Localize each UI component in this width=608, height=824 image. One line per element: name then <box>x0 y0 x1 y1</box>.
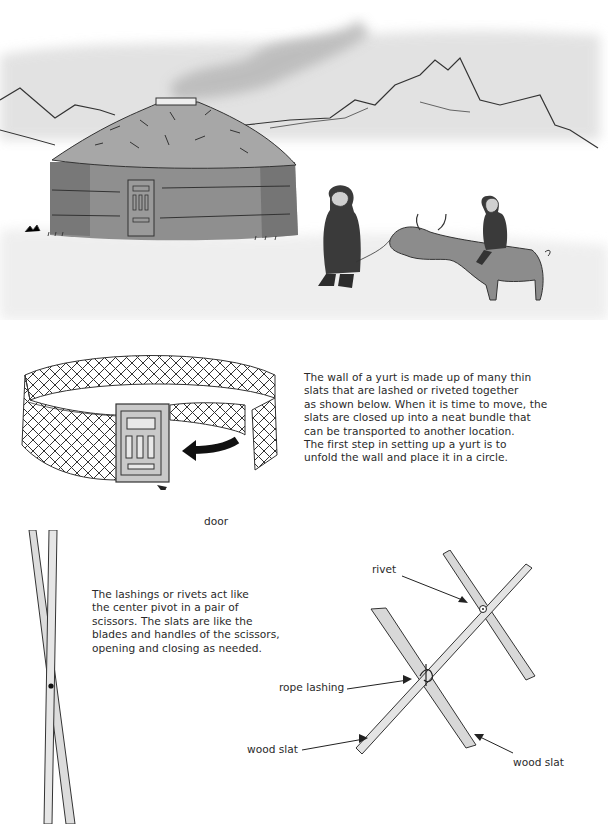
rivet-label: rivet <box>372 563 396 575</box>
wood-slat-left-label: wood slat <box>247 743 298 755</box>
scissor-slats-svg <box>0 530 100 824</box>
yurt-scene-svg <box>0 0 608 320</box>
lattice-wall-svg <box>0 330 300 490</box>
paragraph-line: The first step in setting up a yurt is t… <box>304 438 547 451</box>
paragraph-line: The wall of a yurt is made up of many th… <box>304 371 547 384</box>
paragraph-line: slats are closed up into a neat bundle t… <box>304 411 547 424</box>
wood-slat-right-label: wood slat <box>513 756 564 768</box>
paragraph-line: can be transported to another location. <box>304 425 547 438</box>
yurt-scene-illustration <box>0 0 608 320</box>
door-label: door <box>204 515 228 527</box>
paragraph-line: unfold the wall and place it in a circle… <box>304 451 547 464</box>
crossed-slats-illustration <box>0 530 100 824</box>
yurt-wall-lattice-diagram <box>0 330 300 490</box>
paragraph-line: slats that are lashed or riveted togethe… <box>304 384 547 397</box>
paragraph-line: as shown below. When it is time to move,… <box>304 398 547 411</box>
rope-lashing-label: rope lashing <box>279 681 344 693</box>
wall-description-paragraph: The wall of a yurt is made up of many th… <box>304 371 547 465</box>
